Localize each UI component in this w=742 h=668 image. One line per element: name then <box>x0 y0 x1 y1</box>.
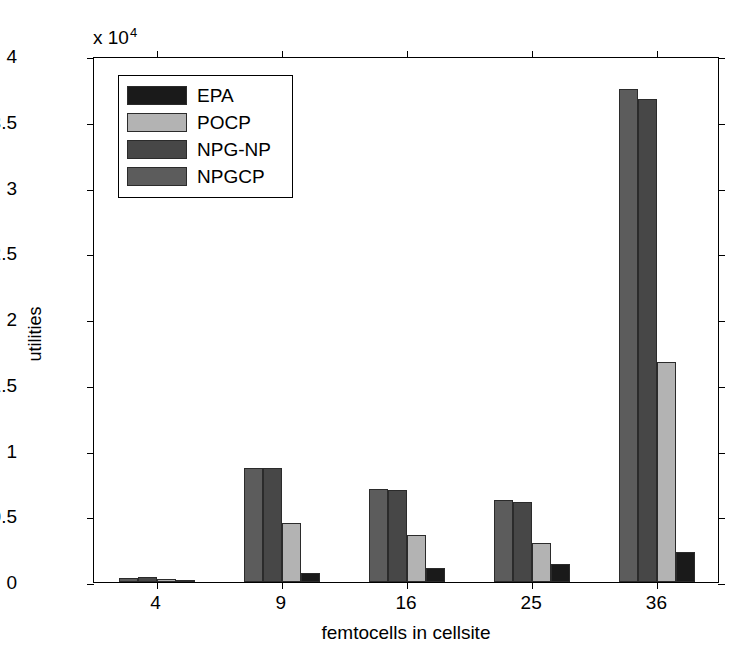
bar <box>657 362 676 582</box>
legend-item: NPG-NP <box>127 136 284 163</box>
y-axis-tick-label: 3 <box>0 178 17 200</box>
y-axis-tick-label: 3.5 <box>0 112 17 134</box>
legend-swatch <box>127 167 187 186</box>
y-axis-tick-right <box>718 584 725 585</box>
bar <box>426 568 445 582</box>
x-axis-tick <box>282 582 283 589</box>
x-axis-tick-top <box>282 51 283 58</box>
y-axis-tick-label: 1.5 <box>0 375 17 397</box>
x-axis-tick-label: 36 <box>646 592 667 614</box>
y-axis-tick-right <box>718 124 725 125</box>
bar <box>494 500 513 582</box>
x-axis-tick-label: 9 <box>276 592 287 614</box>
y-axis-tick-right <box>718 518 725 519</box>
legend-label: EPA <box>197 85 234 107</box>
x-axis-tick <box>657 582 658 589</box>
bar <box>513 502 532 582</box>
x-axis-tick <box>532 582 533 589</box>
y-axis-tick-label: 1 <box>0 441 17 463</box>
legend-swatch <box>127 113 187 132</box>
legend-item: NPGCP <box>127 163 284 190</box>
bar <box>551 564 570 582</box>
y-axis-exponent-base: x 10 <box>93 27 129 48</box>
y-axis-tick-right <box>718 190 725 191</box>
y-axis-tick <box>87 58 94 59</box>
y-axis-tick-label: 4 <box>0 46 17 68</box>
bar <box>619 89 638 582</box>
y-axis-tick-label: 2 <box>0 309 17 331</box>
x-axis-tick-top <box>657 51 658 58</box>
y-axis-tick <box>87 518 94 519</box>
y-axis-exponent-power: 4 <box>130 25 137 40</box>
y-axis-exponent-label: x 104 <box>93 26 137 47</box>
y-axis-tick-label: 2.5 <box>0 243 17 265</box>
bar <box>676 552 695 582</box>
bar <box>176 580 195 582</box>
bar <box>263 468 282 582</box>
x-axis-tick-label: 16 <box>395 592 416 614</box>
y-axis-tick <box>87 387 94 388</box>
y-axis-tick <box>87 124 94 125</box>
bar <box>388 490 407 582</box>
bar <box>369 489 388 582</box>
y-axis-tick-label: 0 <box>0 572 17 594</box>
bar <box>638 99 657 582</box>
y-axis-tick-label: 0.5 <box>0 506 17 528</box>
legend-label: POCP <box>197 112 251 134</box>
bar <box>157 579 176 582</box>
y-axis-tick <box>87 190 94 191</box>
x-axis-tick-top <box>407 51 408 58</box>
bar <box>282 523 301 582</box>
x-axis-title: femtocells in cellsite <box>93 622 719 644</box>
y-axis-tick-right <box>718 255 725 256</box>
x-axis-tick <box>407 582 408 589</box>
bar <box>532 543 551 582</box>
bar <box>301 573 320 582</box>
legend-item: EPA <box>127 82 284 109</box>
y-axis-tick <box>87 453 94 454</box>
legend-swatch <box>127 140 187 159</box>
x-axis-tick-label: 4 <box>150 592 161 614</box>
y-axis-tick <box>87 255 94 256</box>
bar <box>407 535 426 582</box>
legend-label: NPGCP <box>197 166 265 188</box>
legend-swatch <box>127 86 187 105</box>
y-axis-tick-right <box>718 387 725 388</box>
y-axis-tick <box>87 584 94 585</box>
legend-label: NPG-NP <box>197 139 271 161</box>
x-axis-tick-top <box>157 51 158 58</box>
x-axis-tick-top <box>532 51 533 58</box>
bar <box>138 577 157 582</box>
chart-legend: EPAPOCPNPG-NPNPGCP <box>118 75 293 198</box>
legend-item: POCP <box>127 109 284 136</box>
x-axis-tick-label: 25 <box>521 592 542 614</box>
y-axis-tick-right <box>718 58 725 59</box>
y-axis-title: utilities <box>25 306 46 361</box>
bar <box>244 468 263 582</box>
y-axis-tick <box>87 321 94 322</box>
bar <box>119 578 138 582</box>
bar-chart-figure: x 104 utilities 00.511.522.533.54 491625… <box>0 0 742 668</box>
x-axis-tick <box>157 582 158 589</box>
y-axis-tick-right <box>718 321 725 322</box>
y-axis-tick-right <box>718 453 725 454</box>
